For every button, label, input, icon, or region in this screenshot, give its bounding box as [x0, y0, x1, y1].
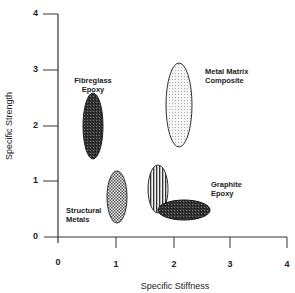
y-tick-2: 2: [33, 120, 38, 130]
label-structural: Structural: [66, 206, 101, 215]
label-fibreglass: Fibreglass: [74, 76, 112, 85]
x-tick-2: 2: [171, 259, 176, 269]
label-graphite: Graphite: [211, 180, 242, 189]
y-tick-1: 1: [33, 175, 38, 185]
y-axis-title: Specific Strength: [4, 92, 14, 160]
label-fibreglass-epoxy: Epoxy: [82, 85, 105, 94]
region-metal-matrix-composite: [166, 63, 192, 147]
label-metals: Metals: [66, 215, 89, 224]
y-tick-4: 4: [33, 8, 38, 18]
y-tick-0: 0: [33, 231, 38, 241]
x-tick-1: 1: [113, 259, 118, 269]
region-fibreglass-epoxy: [83, 93, 103, 159]
x-tick-3: 3: [227, 259, 232, 269]
label-metal-matrix: Metal Matrix: [205, 67, 249, 76]
x-tick-4: 4: [284, 259, 289, 269]
label-composite: Composite: [205, 76, 244, 85]
region-graphite-epoxy: [158, 200, 210, 220]
x-tick-0: 0: [55, 257, 60, 267]
x-axis-title: Specific Stiffness: [141, 281, 210, 291]
region-structural-metals: [107, 171, 127, 223]
y-tick-3: 3: [33, 64, 38, 74]
label-graphite-epoxy: Epoxy: [211, 189, 234, 198]
y-axis: 4 3 2 1 0: [33, 8, 58, 243]
x-axis: 0 1 2 3 4: [44, 237, 290, 269]
chart: 4 3 2 1 0 0 1 2 3 4 Specific Stiffness S…: [0, 0, 295, 293]
